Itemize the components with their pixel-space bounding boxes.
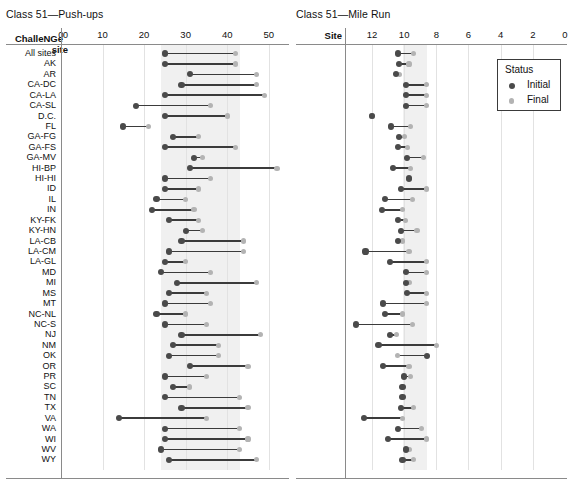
dumbbell-connector [173, 136, 198, 138]
data-point-initial [120, 123, 126, 129]
data-point-final [204, 374, 209, 379]
data-point-final [204, 291, 209, 296]
row-label: MI [46, 278, 56, 287]
data-point-final [424, 291, 429, 296]
x-tick-label: 6 [466, 29, 471, 40]
data-point-initial [162, 300, 168, 306]
data-point-final [424, 186, 429, 191]
gridline [436, 44, 437, 470]
dumbbell-connector [169, 355, 219, 357]
data-point-initial [395, 217, 401, 223]
row-label: WY [42, 455, 57, 464]
data-point-final [406, 364, 411, 369]
data-point-final [262, 93, 267, 98]
dumbbell-connector [165, 115, 227, 117]
row-label: IL [48, 195, 56, 204]
dumbbell-connector [398, 428, 422, 430]
row-label: GA-FS [28, 143, 56, 152]
row-label: VA [45, 414, 56, 423]
data-point-final [408, 166, 413, 171]
dumbbell-connector [177, 282, 256, 284]
data-point-initial [162, 175, 168, 181]
data-point-initial [395, 50, 401, 56]
data-point-initial [162, 259, 168, 265]
data-point-initial [153, 196, 159, 202]
x-axis-ticks-milerun: 121086420 [290, 29, 576, 43]
data-point-initial [398, 405, 404, 411]
x-tick-label: 4 [498, 29, 503, 40]
axis-rule-top [6, 44, 289, 45]
row-label: WI [45, 435, 56, 444]
data-point-final [400, 311, 405, 316]
data-point-initial [162, 50, 168, 56]
data-point-initial [166, 353, 172, 359]
dumbbell-connector [165, 397, 240, 399]
dumbbell-connector [398, 355, 427, 357]
dumbbell-connector [401, 188, 427, 190]
panel-milerun: Class 51—Mile Run Site 121086420 All sit… [290, 0, 576, 496]
row-label: GA-FG [28, 132, 57, 141]
data-point-initial [162, 186, 168, 192]
data-point-final [258, 332, 263, 337]
row-label: WV [42, 445, 57, 454]
data-point-initial [395, 426, 401, 432]
data-point-initial [395, 238, 401, 244]
data-point-final [424, 82, 429, 87]
dumbbell-connector [190, 74, 256, 76]
data-point-final [274, 166, 279, 171]
data-point-initial [166, 248, 172, 254]
data-point-final [237, 447, 242, 452]
data-point-initial [361, 415, 367, 421]
legend-swatch-final [509, 98, 514, 103]
data-point-final [237, 426, 242, 431]
data-point-final [208, 270, 213, 275]
row-label: OK [43, 351, 56, 360]
data-point-initial [162, 373, 168, 379]
row-label: CA-LA [29, 91, 56, 100]
category-axis-line [345, 28, 346, 478]
row-label: IN [47, 205, 56, 214]
row-label: LA-CB [29, 237, 56, 246]
data-point-final [245, 405, 250, 410]
dumbbell-connector [152, 209, 194, 211]
data-point-initial [401, 373, 407, 379]
row-label: HI-HI [35, 174, 56, 183]
data-point-final [200, 228, 205, 233]
row-label: HI-BP [32, 164, 56, 173]
x-tick-label: 30 [180, 29, 191, 40]
dumbbell-connector [378, 344, 436, 346]
x-tick-label: 10 [97, 29, 108, 40]
dumbbell-connector [190, 167, 277, 169]
panel-title-milerun: Class 51—Mile Run [296, 8, 390, 20]
data-point-final [204, 416, 209, 421]
data-point-initial [385, 436, 391, 442]
data-point-initial [387, 259, 393, 265]
dumbbell-connector [173, 344, 219, 346]
dumbbell-connector [165, 188, 198, 190]
row-label: NC-S [34, 320, 56, 329]
data-point-initial [162, 321, 168, 327]
dumbbell-connector [165, 53, 236, 55]
data-point-initial [395, 144, 401, 150]
dumbbell-connector [165, 303, 211, 305]
gridline [468, 44, 469, 470]
data-point-initial [149, 207, 155, 213]
dumbbell-connector [157, 199, 186, 201]
data-point-final [225, 113, 230, 118]
data-point-final [254, 72, 259, 77]
data-point-initial [153, 311, 159, 317]
data-point-initial [166, 457, 172, 463]
data-point-initial [162, 113, 168, 119]
data-point-final [254, 82, 259, 87]
dumbbell-connector [390, 261, 427, 263]
data-point-final [424, 436, 429, 441]
row-label: MT [43, 299, 56, 308]
dumbbell-connector [123, 126, 148, 128]
gridline [372, 44, 373, 470]
row-label: ID [47, 184, 56, 193]
data-point-final [424, 270, 429, 275]
data-point-initial [162, 426, 168, 432]
row-label: D.C. [38, 112, 56, 121]
data-point-initial [396, 134, 402, 140]
row-label: SC [43, 382, 56, 391]
